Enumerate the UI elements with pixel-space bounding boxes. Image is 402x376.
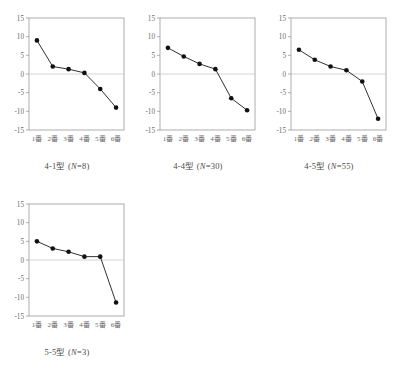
x-axis-tick-label: 6番 xyxy=(242,135,253,143)
chart-panel: 151050-5-10-151番2番3番4番5番6番5-5型 (N=3) xyxy=(0,186,134,372)
y-axis-tick-label: 15 xyxy=(17,15,25,23)
y-axis-tick-label: 0 xyxy=(20,257,24,265)
y-axis-tick-label: -10 xyxy=(276,108,286,116)
line-chart-svg: 151050-5-10-151番2番3番4番5番6番 xyxy=(131,0,265,160)
data-point-marker xyxy=(229,96,234,101)
data-point-marker xyxy=(328,64,333,69)
x-axis-tick-label: 3番 xyxy=(325,135,336,143)
y-axis-tick-label: 10 xyxy=(17,33,25,41)
data-point-marker xyxy=(344,68,349,73)
data-point-marker xyxy=(297,47,302,52)
x-axis-tick-label: 5番 xyxy=(226,135,237,143)
y-axis-tick-label: 5 xyxy=(20,52,24,60)
y-axis-tick-label: 15 xyxy=(148,15,156,23)
line-chart-svg: 151050-5-10-151番2番3番4番5番6番 xyxy=(0,0,134,160)
y-axis-tick-label: -10 xyxy=(145,108,155,116)
y-axis-tick-label: 5 xyxy=(151,52,155,60)
y-axis-tick-label: 10 xyxy=(148,33,156,41)
data-series-line xyxy=(168,48,247,110)
y-axis-tick-label: 0 xyxy=(151,71,155,79)
x-axis-tick-label: 4番 xyxy=(210,135,221,143)
y-axis-tick-label: 0 xyxy=(20,71,24,79)
chart-caption: 4-5型 (N=55) xyxy=(262,160,396,172)
caption-sample-size: =8) xyxy=(77,161,89,171)
y-axis-tick-label: -5 xyxy=(280,89,286,97)
x-axis-tick-label: 6番 xyxy=(111,135,122,143)
data-point-marker xyxy=(245,108,250,113)
caption-type-label: 5-5型 ( xyxy=(45,347,72,357)
chart-caption: 4-4型 (N=30) xyxy=(131,160,265,172)
line-chart-svg: 151050-5-10-151番2番3番4番5番6番 xyxy=(262,0,396,160)
plot-area: 151050-5-10-151番2番3番4番5番6番 xyxy=(131,0,265,160)
x-axis-tick-label: 3番 xyxy=(63,321,74,329)
chart-caption: 5-5型 (N=3) xyxy=(0,346,134,358)
y-axis-tick-label: 15 xyxy=(279,15,287,23)
x-axis-tick-label: 6番 xyxy=(373,135,384,143)
y-axis-tick-label: -5 xyxy=(149,89,155,97)
data-point-marker xyxy=(66,249,71,254)
caption-type-label: 4-4型 ( xyxy=(173,161,200,171)
caption-type-label: 4-5型 ( xyxy=(304,161,331,171)
chart-panel: 151050-5-10-151番2番3番4番5番6番4-4型 (N=30) xyxy=(131,0,265,186)
y-axis-tick-label: -15 xyxy=(14,313,24,321)
data-point-marker xyxy=(98,87,103,92)
y-axis-tick-label: 5 xyxy=(20,238,24,246)
y-axis-tick-label: 10 xyxy=(279,33,287,41)
y-axis-tick-label: -5 xyxy=(18,275,24,283)
data-series-line xyxy=(37,241,116,302)
x-axis-tick-label: 5番 xyxy=(95,321,106,329)
x-axis-tick-label: 2番 xyxy=(310,135,321,143)
y-axis-tick-label: -15 xyxy=(14,127,24,135)
data-point-marker xyxy=(181,54,186,59)
x-axis-tick-label: 5番 xyxy=(95,135,106,143)
y-axis-tick-label: 5 xyxy=(282,52,286,60)
data-point-marker xyxy=(50,246,55,251)
data-point-marker xyxy=(50,64,55,69)
x-axis-tick-label: 2番 xyxy=(48,321,59,329)
y-axis-tick-label: -10 xyxy=(14,294,24,302)
data-point-marker xyxy=(114,300,119,305)
x-axis-tick-label: 5番 xyxy=(357,135,368,143)
x-axis-tick-label: 3番 xyxy=(63,135,74,143)
x-axis-tick-label: 1番 xyxy=(163,135,174,143)
data-point-marker xyxy=(82,71,87,76)
chart-panel: 151050-5-10-151番2番3番4番5番6番4-1型 (N=8) xyxy=(0,0,134,186)
x-axis-tick-label: 3番 xyxy=(194,135,205,143)
data-series-line xyxy=(299,50,378,119)
y-axis-tick-label: 0 xyxy=(282,71,286,79)
figure-grid: 151050-5-10-151番2番3番4番5番6番4-1型 (N=8)1510… xyxy=(0,0,402,376)
x-axis-tick-label: 6番 xyxy=(111,321,122,329)
x-axis-tick-label: 1番 xyxy=(32,321,43,329)
data-point-marker xyxy=(376,117,381,122)
data-point-marker xyxy=(213,67,218,72)
data-point-marker xyxy=(98,254,103,259)
y-axis-tick-label: 15 xyxy=(17,201,25,209)
x-axis-tick-label: 1番 xyxy=(32,135,43,143)
x-axis-tick-label: 4番 xyxy=(341,135,352,143)
x-axis-tick-label: 2番 xyxy=(179,135,190,143)
data-point-marker xyxy=(35,239,40,244)
data-point-marker xyxy=(197,62,202,67)
caption-type-label: 4-1型 ( xyxy=(45,161,72,171)
data-point-marker xyxy=(114,105,119,110)
line-chart-svg: 151050-5-10-151番2番3番4番5番6番 xyxy=(0,186,134,346)
data-point-marker xyxy=(66,67,71,72)
y-axis-tick-label: -10 xyxy=(14,108,24,116)
y-axis-tick-label: -5 xyxy=(18,89,24,97)
y-axis-tick-label: -15 xyxy=(145,127,155,135)
x-axis-tick-label: 1番 xyxy=(294,135,305,143)
chart-caption: 4-1型 (N=8) xyxy=(0,160,134,172)
caption-sample-size: =30) xyxy=(206,161,223,171)
caption-sample-size: =3) xyxy=(77,347,89,357)
data-point-marker xyxy=(166,46,171,51)
data-point-marker xyxy=(35,38,40,43)
data-point-marker xyxy=(312,58,317,63)
data-point-marker xyxy=(82,254,87,259)
x-axis-tick-label: 2番 xyxy=(48,135,59,143)
chart-panel: 151050-5-10-151番2番3番4番5番6番4-5型 (N=55) xyxy=(262,0,396,186)
data-point-marker xyxy=(360,79,365,84)
plot-area: 151050-5-10-151番2番3番4番5番6番 xyxy=(262,0,396,160)
x-axis-tick-label: 4番 xyxy=(79,135,90,143)
x-axis-tick-label: 4番 xyxy=(79,321,90,329)
plot-area: 151050-5-10-151番2番3番4番5番6番 xyxy=(0,186,134,346)
